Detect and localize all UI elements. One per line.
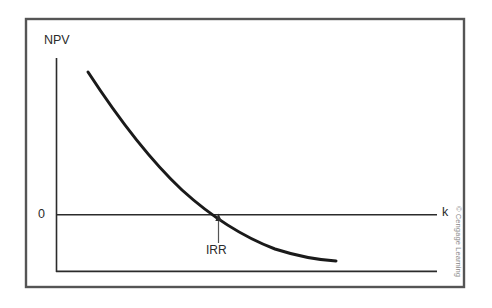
figure-container: NPV 0 k IRR © Cengage Learning bbox=[0, 0, 492, 308]
figure-border bbox=[26, 19, 464, 287]
copyright-credit: © Cengage Learning bbox=[455, 206, 463, 277]
npv-profile-curve bbox=[88, 72, 336, 261]
irr-annotation-label: IRR bbox=[206, 244, 227, 256]
y-axis-label: NPV bbox=[44, 34, 70, 47]
x-axis-label: k bbox=[442, 206, 448, 219]
y-axis-zero-tick-label: 0 bbox=[38, 208, 45, 221]
chart-canvas bbox=[0, 0, 492, 308]
